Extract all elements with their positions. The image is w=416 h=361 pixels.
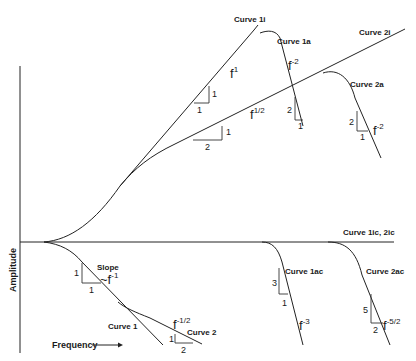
curve-1ac-label: Curve 1ac: [285, 267, 324, 276]
curve-2a-run: 1: [360, 132, 365, 142]
curve-1ac-slope-label: f-3: [299, 317, 310, 333]
curve-1a-label: Curve 1a: [277, 37, 311, 46]
curve-2ac: [328, 242, 390, 345]
curve-1ac-rise: 3: [272, 278, 277, 288]
curve-2-label: Curve 2: [187, 328, 217, 337]
curve-1i-slope-label: f1: [230, 65, 239, 81]
curve-1i-run: 1: [197, 105, 202, 115]
curve-2-run: 2: [181, 345, 186, 355]
curve-2a-rise: 2: [349, 117, 354, 127]
curve-2i-label: Curve 2i: [359, 28, 391, 37]
curve-2ac-rise: 5: [363, 305, 368, 315]
curve-1-slope-label: ~f-1: [100, 271, 119, 287]
curve-2ac-slope-label: f-5/2: [383, 317, 401, 333]
curve-2i-slope-label: f1/2: [250, 106, 265, 122]
curve-1a-slope-label: f-2: [288, 57, 299, 73]
curve-1ac-run: 1: [282, 298, 287, 308]
curve-1-rise: 1: [74, 268, 79, 278]
curve-2-rise: 1: [169, 334, 174, 344]
curve-1i-rise: 1: [212, 89, 217, 99]
x-axis-label: Frequency: [52, 340, 98, 350]
curve-2i-rise: 1: [226, 127, 231, 137]
curve-1: [44, 242, 163, 345]
curve-1ac: [262, 242, 303, 345]
curve-2ac-label: Curve 2ac: [366, 267, 405, 276]
curve-1i-label: Curve 1i: [234, 15, 266, 24]
curve-1a-run: 1: [298, 121, 303, 131]
amplitude-frequency-diagram: Amplitude Frequency Curve 1ic, 2ic Curve…: [0, 0, 416, 361]
curve-2a-slope-label: f-2: [373, 122, 384, 138]
curve-2a-slope-triangle: [357, 111, 368, 131]
curve-2ac-slope-triangle: [371, 294, 383, 323]
curve-1-run: 1: [89, 285, 94, 295]
curve-1-label: Curve 1: [108, 322, 138, 331]
curve-2ac-run: 2: [373, 325, 378, 335]
curve-2i-run: 2: [205, 142, 210, 152]
curve-1i-slope-triangle: [194, 86, 209, 103]
curve-2a-label: Curve 2a: [350, 80, 384, 89]
y-axis-label: Amplitude: [8, 248, 18, 292]
curve-1a-rise: 2: [287, 105, 292, 115]
curve-1ic-2ic-label: Curve 1ic, 2ic: [343, 228, 395, 237]
